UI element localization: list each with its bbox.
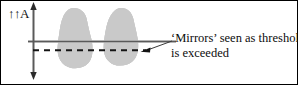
- annotation-line-2: is exceeded: [171, 46, 297, 61]
- annotation-text-block: ‘Mirrors’ seen as threshold is exceeded: [171, 31, 297, 60]
- annotation-line-1: ‘Mirrors’ seen as threshold: [171, 31, 297, 46]
- axis-label-amplitude: ↑↑A: [8, 7, 29, 21]
- figure-container: ↑↑A ‘Mirrors’ seen as threshold is excee…: [0, 0, 298, 85]
